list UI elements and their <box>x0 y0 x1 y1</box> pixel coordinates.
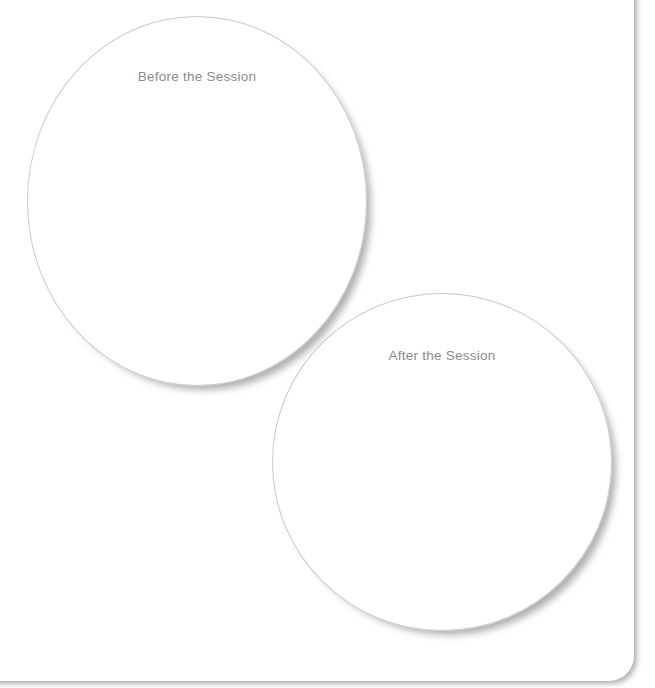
circle-label-after: After the Session <box>273 348 611 363</box>
circle-before-the-session[interactable]: Before the Session <box>27 16 367 386</box>
circle-after-the-session[interactable]: After the Session <box>272 293 612 631</box>
circle-label-before: Before the Session <box>28 69 366 84</box>
worksheet-canvas: Before the Session After the Session <box>0 0 655 688</box>
